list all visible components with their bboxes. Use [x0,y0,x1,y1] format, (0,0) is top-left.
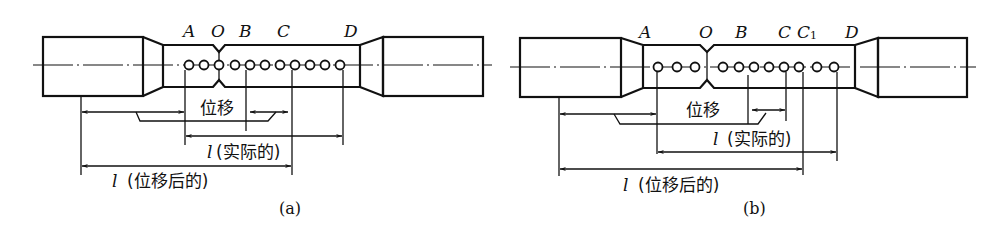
actual-label: (实际的) [216,142,280,162]
specimen-a [33,37,492,96]
label-B: B [238,21,252,41]
label-D: D [343,21,358,41]
label-A: A [181,21,195,41]
tensile-specimen-figure: A O B C D 位移 l (实际的) l (位移后的) (a) [0,0,996,231]
l-symbol-actual: l [713,129,718,149]
specimen-b [510,38,976,97]
l-symbol-after: l [623,175,628,195]
actual-label: (实际的) [727,129,791,149]
right-taper [360,37,383,96]
panel-a: A O B C D 位移 l (实际的) l (位移后的) (a) [33,21,492,218]
label-B: B [734,22,748,42]
l-symbol-actual: l [207,142,212,162]
label-O: O [699,22,713,42]
caption-b: (b) [743,199,766,218]
caption-a: (a) [279,199,301,218]
panel-b: A O B C C 1 D 位移 l (实际的) l (位移后的) (b) [510,22,976,218]
label-A: A [637,22,651,42]
gauge-marks [185,61,345,70]
label-C1-subscript: 1 [810,29,817,42]
label-C: C [277,21,290,41]
right-grip [383,37,483,96]
displacement-label: 位移 [686,100,720,120]
l-symbol-after: l [112,171,117,191]
label-O: O [211,21,225,41]
label-D: D [844,22,859,42]
after-displacement-label: (位移后的) [127,171,208,191]
left-taper [143,37,163,96]
after-displacement-label: (位移后的) [638,175,719,195]
left-grip [43,37,143,96]
label-C: C [778,22,791,42]
label-C1: C [797,22,810,42]
displacement-label: 位移 [200,98,234,118]
